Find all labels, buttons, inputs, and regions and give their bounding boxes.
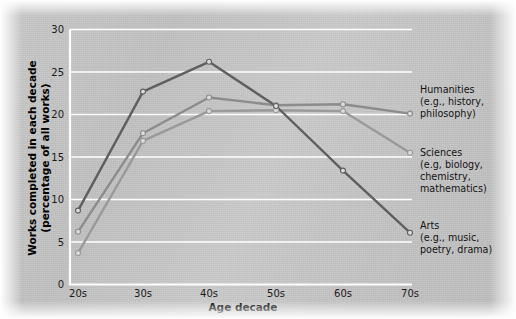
series-line-arts [78,62,410,233]
gridlines [70,30,412,243]
data-point-sciences-40s [207,109,212,114]
data-point-humanities-60s [341,102,346,107]
x-tick-60s: 60s [334,288,352,299]
x-tick-50s: 50s [267,288,285,299]
legend-arts-line2: poetry, drama) [420,244,492,255]
line-chart-svg: 30 25 20 15 10 5 0 20s 30s 40s 50s 60s 7… [0,0,516,319]
data-point-humanities-20s [76,229,81,234]
y-tick-20: 20 [51,109,64,120]
data-point-arts-60s [341,168,346,173]
data-point-arts-20s [76,208,81,213]
x-axis-title: Age decade [208,301,277,313]
series-line-sciences [78,110,410,253]
y-tick-0: 0 [58,279,64,290]
x-axis-tick-labels: 20s 30s 40s 50s 60s 70s [69,288,419,299]
data-point-arts-40s [207,59,212,64]
x-tick-40s: 40s [200,288,218,299]
y-axis-title-line2: (percentage of all works) [39,83,51,232]
data-point-humanities-70s [408,111,413,116]
x-tick-30s: 30s [134,288,152,299]
legend-arts-label: Arts [420,220,439,231]
data-point-arts-70s [408,230,413,235]
x-tick-20s: 20s [69,288,87,299]
legend: Humanities (e.g., history, philosophy) S… [420,84,492,255]
y-axis-title-line1: Works completed in each decade [26,60,38,255]
data-point-arts-50s [274,104,279,109]
data-point-arts-30s [141,89,146,94]
y-tick-15: 15 [51,152,64,163]
y-tick-10: 10 [51,194,64,205]
legend-sciences-line2: chemistry, [420,171,471,182]
y-tick-5: 5 [58,237,64,248]
data-point-humanities-40s [207,95,212,100]
legend-arts-line1: (e.g., music, [420,232,479,243]
y-tick-25: 25 [51,67,64,78]
legend-humanities-label: Humanities [420,84,475,95]
y-axis-title: Works completed in each decade (percenta… [26,60,51,255]
legend-humanities-line1: (e.g., history, [420,96,484,107]
data-point-sciences-70s [408,150,413,155]
legend-sciences-line1: (e.g, biology, [420,159,483,170]
chart-figure: 30 25 20 15 10 5 0 20s 30s 40s 50s 60s 7… [0,0,516,319]
y-axis-tick-labels: 30 25 20 15 10 5 0 [51,24,64,290]
legend-sciences-label: Sciences [420,147,462,158]
legend-humanities-line2: philosophy) [420,108,476,119]
data-point-sciences-30s [141,138,146,143]
x-tick-70s: 70s [401,288,419,299]
y-tick-30: 30 [51,24,64,35]
legend-sciences-line3: mathematics) [420,183,487,194]
data-point-sciences-20s [76,251,81,256]
data-point-sciences-60s [341,109,346,114]
data-point-humanities-30s [141,131,146,136]
